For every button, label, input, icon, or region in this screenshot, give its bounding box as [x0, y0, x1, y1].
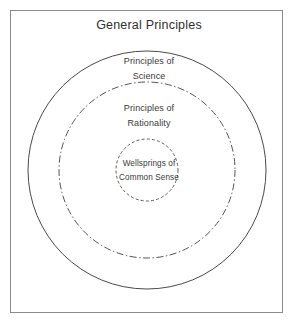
- inner-ring-label-line-1: Wellsprings of: [0, 158, 298, 170]
- diagram-page: General Principles Principles of Science…: [0, 0, 298, 326]
- diagram-title: General Principles: [0, 16, 298, 34]
- middle-ring-label-line-1: Principles of: [0, 102, 298, 115]
- inner-ring-label-line-2: Common Sense: [0, 172, 298, 184]
- outer-ring-label: Principles of Science: [0, 55, 298, 83]
- inner-ring-label: Wellsprings of Common Sense: [0, 158, 298, 184]
- middle-ring-label: Principles of Rationality: [0, 102, 298, 130]
- middle-ring-label-line-2: Rationality: [0, 117, 298, 130]
- outer-ring-label-line-2: Science: [0, 70, 298, 83]
- outer-ring-label-line-1: Principles of: [0, 55, 298, 68]
- concentric-circles-figure: General Principles Principles of Science…: [0, 0, 298, 326]
